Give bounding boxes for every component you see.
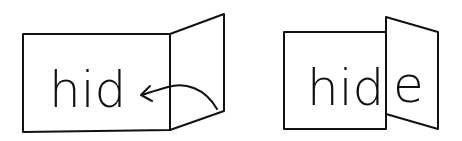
flap-letter: e <box>393 56 424 114</box>
right-card-word: hid <box>307 59 384 117</box>
open-flap <box>170 14 224 130</box>
left-panel: hid <box>23 14 224 132</box>
fold-card-diagram: hid hid e <box>0 0 462 141</box>
left-card-word: hid <box>49 61 126 119</box>
right-panel: hid e <box>284 17 438 129</box>
